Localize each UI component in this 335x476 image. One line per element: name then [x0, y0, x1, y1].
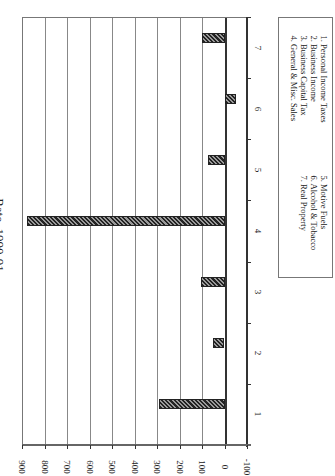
plot-area [22, 17, 247, 445]
value-tick [112, 445, 113, 449]
gridline [67, 18, 68, 444]
category-tick [247, 78, 251, 79]
legend-column-1: 1. Personal Income Taxes 2. Business Inc… [288, 35, 328, 122]
value-tick [135, 445, 136, 449]
category-label: 6 [253, 103, 263, 115]
legend-item: 6. Alcohol & Tobacco [308, 175, 318, 250]
value-tick-label: 200 [175, 454, 185, 476]
category-label: 3 [253, 286, 263, 298]
legend-item: 7. Real Property [298, 175, 308, 250]
category-tick [247, 200, 251, 201]
bar-category-5 [208, 155, 225, 165]
legend: 1. Personal Income Taxes 2. Business Inc… [278, 17, 333, 278]
chart-title: Rate, 1990-91 [0, 175, 7, 295]
gridline [45, 18, 46, 444]
value-tick-label: 300 [152, 454, 162, 476]
value-tick-label: 500 [107, 454, 117, 476]
value-tick [202, 445, 203, 449]
value-tick [157, 445, 158, 449]
gridline [112, 18, 113, 444]
gridline [202, 18, 203, 444]
category-label: 7 [253, 42, 263, 54]
value-tick-label: 700 [62, 454, 72, 476]
gridline [157, 18, 158, 444]
gridline [90, 18, 91, 444]
value-tick [22, 445, 23, 449]
legend-column-2: 5. Motive Fuels 6. Alcohol & Tobacco 7. … [298, 175, 328, 250]
category-tick [247, 384, 251, 385]
gridline [135, 18, 136, 444]
legend-item: 3. Business Capital Tax [298, 35, 308, 122]
category-label: 2 [253, 347, 263, 359]
category-label: 4 [253, 225, 263, 237]
category-tick [247, 323, 251, 324]
category-axis [246, 17, 248, 447]
value-tick-label: 800 [40, 454, 50, 476]
bar-category-3 [201, 277, 225, 287]
legend-item: 4. General & Misc. Sales [288, 35, 298, 122]
category-label: 1 [253, 408, 263, 420]
legend-item: 2. Business Income [308, 35, 318, 122]
category-tick [247, 262, 251, 263]
bar-category-4 [27, 216, 225, 226]
category-tick [247, 139, 251, 140]
value-tick-label: 900 [17, 454, 27, 476]
bar-category-6 [225, 94, 236, 104]
legend-item: 5. Motive Fuels [318, 175, 328, 250]
value-tick-label: 0 [220, 454, 230, 476]
value-tick [180, 445, 181, 449]
bar-category-1 [159, 399, 224, 409]
bar-category-2 [213, 338, 225, 348]
value-tick-label: -100 [242, 454, 252, 476]
value-tick-label: 400 [130, 454, 140, 476]
bar-category-7 [202, 33, 225, 43]
zero-line [225, 18, 227, 444]
category-tick [247, 17, 251, 18]
value-tick-label: 600 [85, 454, 95, 476]
legend-item: 1. Personal Income Taxes [318, 35, 328, 122]
value-axis [22, 444, 251, 446]
value-tick [45, 445, 46, 449]
value-tick [225, 445, 226, 449]
value-tick [90, 445, 91, 449]
value-tick [67, 445, 68, 449]
category-label: 5 [253, 164, 263, 176]
value-tick-label: 100 [197, 454, 207, 476]
value-tick [247, 445, 248, 449]
gridline [180, 18, 181, 444]
